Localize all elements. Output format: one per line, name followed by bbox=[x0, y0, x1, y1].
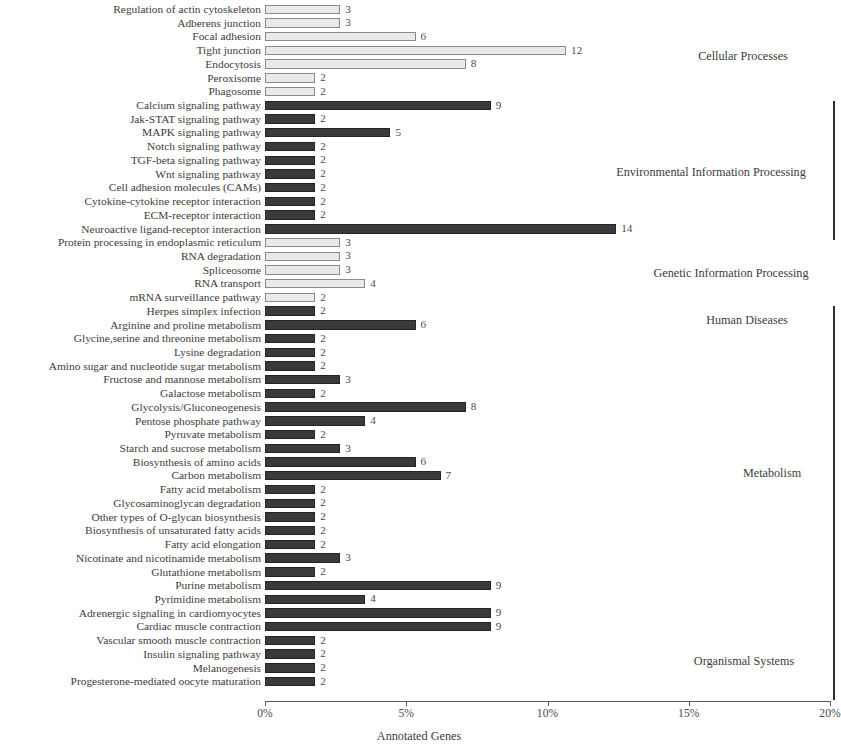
pathway-row: Lysine degradation2 bbox=[265, 346, 830, 360]
pathway-bar bbox=[265, 32, 416, 41]
pathway-gene-count: 2 bbox=[320, 359, 326, 373]
pathway-label: Notch signaling pathway bbox=[0, 140, 261, 153]
pathway-bar bbox=[265, 169, 315, 178]
pathway-row: Glycine,serine and threonine metabolism2 bbox=[265, 332, 830, 346]
pathway-label: Cytokine-cytokine receptor interaction bbox=[0, 195, 261, 208]
pathway-label: Phagosome bbox=[0, 85, 261, 98]
pathway-gene-count: 2 bbox=[320, 208, 326, 222]
pathway-row: RNA degradation3 bbox=[265, 250, 830, 264]
pathway-bar bbox=[265, 677, 315, 686]
pathway-label: Purine metabolism bbox=[0, 579, 261, 592]
pathway-bar bbox=[265, 156, 315, 165]
pathway-row: Protein processing in endoplasmic reticu… bbox=[265, 236, 830, 250]
pathway-row: Pyrimidine metabolism4 bbox=[265, 593, 830, 607]
pathway-label: Endocytosis bbox=[0, 58, 261, 71]
x-tick-mark bbox=[689, 701, 690, 706]
pathway-row: Pyruvate metabolism2 bbox=[265, 428, 830, 442]
category-group-label: Genetic Information Processing bbox=[653, 266, 808, 281]
pathway-label: Wnt signaling pathway bbox=[0, 168, 261, 181]
pathway-label: Glycosaminoglycan degradation bbox=[0, 497, 261, 510]
pathway-row: Cytokine-cytokine receptor interaction2 bbox=[265, 195, 830, 209]
pathway-bar bbox=[265, 142, 315, 151]
pathway-gene-count: 8 bbox=[471, 400, 477, 414]
category-group-label: Metabolism bbox=[743, 466, 801, 481]
pathway-label: ECM-receptor interaction bbox=[0, 209, 261, 222]
pathway-row: ECM-receptor interaction2 bbox=[265, 209, 830, 223]
x-tick-mark bbox=[548, 701, 549, 706]
pathway-row: Regulation of actin cytoskeleton3 bbox=[265, 3, 830, 17]
pathway-bar bbox=[265, 183, 315, 192]
pathway-row: Fructose and mannose metabolism3 bbox=[265, 373, 830, 387]
pathway-row: Glycolysis/Gluconeogenesis8 bbox=[265, 401, 830, 415]
pathway-row: Starch and sucrose metabolism3 bbox=[265, 442, 830, 456]
pathway-bar bbox=[265, 87, 315, 96]
pathway-bar bbox=[265, 471, 441, 480]
pathway-gene-count: 2 bbox=[320, 167, 326, 181]
pathway-bar bbox=[265, 224, 616, 233]
x-tick-label: 5% bbox=[399, 707, 414, 720]
pathway-gene-count: 2 bbox=[320, 675, 326, 689]
pathway-label: mRNA surveillance pathway bbox=[0, 291, 261, 304]
pathway-label: Focal adhesion bbox=[0, 30, 261, 43]
pathway-row: Phagosome2 bbox=[265, 85, 830, 99]
pathway-bar bbox=[265, 553, 340, 562]
pathway-gene-count: 2 bbox=[320, 195, 326, 209]
category-group-label: Human Diseases bbox=[706, 313, 788, 328]
plot-area: Regulation of actin cytoskeleton3Adberen… bbox=[265, 3, 830, 701]
pathway-bar bbox=[265, 59, 466, 68]
pathway-bar bbox=[265, 334, 315, 343]
pathway-row: Neuroactive ligand-receptor interaction1… bbox=[265, 223, 830, 237]
pathway-row: Jak-STAT signaling pathway2 bbox=[265, 113, 830, 127]
pathway-gene-count: 3 bbox=[345, 16, 351, 30]
pathway-label: Carbon metabolism bbox=[0, 469, 261, 482]
pathway-gene-count: 2 bbox=[320, 538, 326, 552]
pathway-label: RNA transport bbox=[0, 277, 261, 290]
pathway-label: Vascular smooth muscle contraction bbox=[0, 634, 261, 647]
pathway-row: Adberens junction3 bbox=[265, 17, 830, 31]
pathway-row: Nicotinate and nicotinamide metabolism3 bbox=[265, 552, 830, 566]
pathway-label: Amino sugar and nucleotide sugar metabol… bbox=[0, 360, 261, 373]
pathway-gene-count: 2 bbox=[320, 661, 326, 675]
pathway-gene-count: 6 bbox=[421, 455, 427, 469]
category-group-label: Environmental Information Processing bbox=[616, 165, 806, 180]
pathway-label: Peroxisome bbox=[0, 72, 261, 85]
pathway-gene-count: 4 bbox=[370, 277, 376, 291]
pathway-gene-count: 2 bbox=[320, 85, 326, 99]
x-tick-mark bbox=[406, 701, 407, 706]
pathway-gene-count: 2 bbox=[320, 332, 326, 346]
pathway-label: Pyrimidine metabolism bbox=[0, 593, 261, 606]
pathway-row: Amino sugar and nucleotide sugar metabol… bbox=[265, 360, 830, 374]
pathway-bar bbox=[265, 622, 491, 631]
pathway-label: Herpes simplex infection bbox=[0, 305, 261, 318]
pathway-bar bbox=[265, 306, 315, 315]
pathway-label: Glutathione metabolism bbox=[0, 566, 261, 579]
pathway-gene-count: 2 bbox=[320, 181, 326, 195]
category-bracket-line bbox=[833, 101, 835, 240]
pathway-gene-count: 9 bbox=[496, 620, 502, 634]
pathway-gene-count: 2 bbox=[320, 112, 326, 126]
pathway-gene-count: 2 bbox=[320, 634, 326, 648]
pathway-label: Biosynthesis of amino acids bbox=[0, 456, 261, 469]
pathway-label: Starch and sucrose metabolism bbox=[0, 442, 261, 455]
pathway-label: Pyruvate metabolism bbox=[0, 428, 261, 441]
pathway-row: Vascular smooth muscle contraction2 bbox=[265, 634, 830, 648]
x-axis-title: Annotated Genes bbox=[0, 729, 838, 744]
category-bracket-line bbox=[833, 306, 835, 700]
pathway-row: Fatty acid metabolism2 bbox=[265, 483, 830, 497]
pathway-label: Jak-STAT signaling pathway bbox=[0, 113, 261, 126]
pathway-bar bbox=[265, 46, 566, 55]
pathway-bar bbox=[265, 252, 340, 261]
pathway-bar bbox=[265, 430, 315, 439]
pathway-label: TGF-beta signaling pathway bbox=[0, 154, 261, 167]
pathway-row: Focal adhesion6 bbox=[265, 30, 830, 44]
pathway-label: MAPK signaling pathway bbox=[0, 126, 261, 139]
pathway-bar bbox=[265, 636, 315, 645]
pathway-bar bbox=[265, 128, 390, 137]
pathway-bar bbox=[265, 293, 315, 302]
pathway-row: Purine metabolism9 bbox=[265, 579, 830, 593]
pathway-gene-count: 3 bbox=[345, 263, 351, 277]
pathway-gene-count: 3 bbox=[345, 551, 351, 565]
pathway-label: Fatty acid elongation bbox=[0, 538, 261, 551]
pathway-label: Galactose metabolism bbox=[0, 387, 261, 400]
x-tick-mark bbox=[265, 701, 266, 706]
